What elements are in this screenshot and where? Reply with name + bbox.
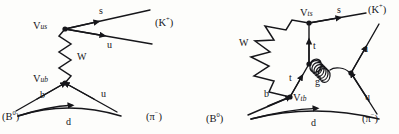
arrow-u-quark-top [65,29,104,36]
arrow-s-quark [309,18,340,23]
quark-label-u-lower: u [365,92,370,102]
arrow-b-quark [268,97,290,106]
quark-label-s: s [99,6,103,16]
w-boson-label: W [77,52,86,62]
quark-label-t-lower: t [289,73,292,83]
hadron-label-kplus: (K+) [368,3,386,15]
quark-label-u-upper: u [363,44,368,54]
vertex-label-vts: Vts [300,8,313,19]
quark-label-d: d [311,118,316,128]
penguin-diagram: Vts Vtb W t t s b g u u d (B0) (K+) (π−) [199,0,399,134]
vertex-dot-gluon-absorption [348,70,353,75]
vertex-dot-ts [306,20,311,25]
hadron-label-kplus: (K+) [155,16,173,28]
hadron-label-b0: (B0) [2,110,19,122]
hadron-label-b0: (B0) [206,112,223,124]
quark-label-b: b [40,90,45,100]
quark-label-u-top: u [107,40,112,50]
quark-label-u-bottom: u [101,89,106,99]
vertex-label-vus: Vus [33,21,47,32]
w-boson-zigzag [59,29,71,83]
quark-label-b: b [264,89,269,99]
w-boson-label: W [239,38,248,48]
quark-label-t-upper: t [313,41,316,51]
arrow-d-quark [18,105,72,116]
vertex-label-vtb: Vtb [293,93,306,104]
arrow-u-quark-bottom [65,83,94,99]
w-boson-zigzag [251,20,309,97]
quark-label-s: s [337,5,341,15]
vertex-dot-us [62,26,67,31]
gluon-tail [330,68,349,72]
quark-label-d: d [66,117,71,127]
tree-diagram: Vus Vub W s u b u d (B0) (K+) (π−) [0,0,199,134]
vertex-label-vub: Vub [33,74,48,85]
gluon-label-g: g [315,77,320,87]
arrow-s-quark [65,22,98,29]
vertex-dot-ub [62,80,67,85]
figure-canvas: Vus Vub W s u b u d (B0) (K+) (π−) [0,0,399,134]
hadron-label-piminus: (π−) [146,110,162,122]
vertex-dot-tb [287,94,292,99]
vertex-dot-gluon-emission [306,61,311,66]
hadron-label-piminus: (π−) [362,112,378,124]
